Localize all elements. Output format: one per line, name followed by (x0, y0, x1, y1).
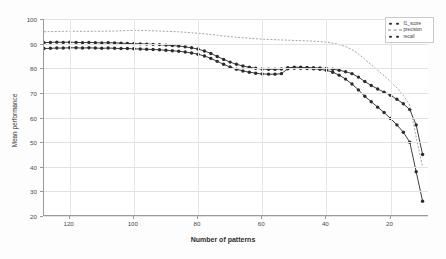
legend-label-f1-score: f1_score (404, 21, 422, 27)
series-marker-recall (171, 49, 174, 52)
chart-figure: 203040506070809010012010080604020 Mean p… (0, 0, 446, 259)
series-marker-recall (203, 54, 206, 57)
gridline-horizontal (44, 93, 428, 94)
series-marker-f1_score (209, 52, 212, 55)
series-marker-recall (370, 100, 373, 103)
series-marker-recall (62, 46, 65, 49)
legend-marker-recall (388, 34, 402, 40)
legend-item-precision: precision (388, 27, 431, 33)
legend-item-recall: recall (388, 34, 431, 40)
gridline-horizontal (44, 19, 428, 20)
y-tick-label: 30 (0, 188, 37, 195)
series-marker-recall (280, 72, 283, 75)
series-marker-f1_score (370, 84, 373, 87)
series-marker-f1_score (376, 87, 379, 90)
series-marker-recall (209, 57, 212, 60)
series-marker-recall (421, 200, 424, 203)
series-marker-f1_score (190, 46, 193, 49)
series-marker-recall (216, 60, 219, 63)
series-marker-recall (363, 95, 366, 98)
series-marker-recall (222, 63, 225, 66)
gridline-vertical (70, 19, 71, 215)
series-marker-recall (254, 71, 257, 74)
x-tick-mark (69, 216, 70, 219)
x-tick-label: 80 (194, 220, 201, 227)
series-marker-recall (158, 48, 161, 51)
x-tick-label: 120 (63, 220, 73, 227)
y-tick-label: 90 (0, 40, 37, 47)
series-marker-f1_score (414, 123, 417, 126)
series-marker-recall (119, 47, 122, 50)
series-marker-recall (164, 49, 167, 52)
series-marker-f1_score (203, 49, 206, 52)
y-tick-mark (40, 68, 43, 69)
series-marker-recall (145, 48, 148, 51)
y-tick-mark (40, 93, 43, 94)
series-marker-f1_score (177, 44, 180, 47)
x-tick-label: 40 (322, 220, 329, 227)
gridline-vertical (326, 19, 327, 215)
series-marker-recall (190, 51, 193, 54)
series-marker-f1_score (395, 98, 398, 101)
y-tick-mark (40, 142, 43, 143)
plot-area (43, 19, 428, 216)
series-line-f1_score (44, 42, 423, 154)
gridline-horizontal (44, 142, 428, 143)
y-tick-label: 80 (0, 65, 37, 72)
gridline-horizontal (44, 167, 428, 168)
series-marker-recall (87, 46, 90, 49)
series-marker-recall (113, 47, 116, 50)
x-tick-mark (197, 216, 198, 219)
y-tick-label: 20 (0, 213, 37, 220)
y-tick-label: 50 (0, 139, 37, 146)
series-marker-recall (350, 82, 353, 85)
y-tick-mark (40, 216, 43, 217)
x-tick-mark (390, 216, 391, 219)
series-marker-recall (344, 77, 347, 80)
gridline-horizontal (44, 68, 428, 69)
series-marker-recall (94, 46, 97, 49)
series-line-recall (44, 48, 423, 201)
series-marker-recall (337, 73, 340, 76)
gridline-vertical (391, 19, 392, 215)
series-marker-recall (382, 111, 385, 114)
series-marker-recall (74, 46, 77, 49)
series-marker-recall (49, 47, 52, 50)
y-tick-mark (40, 19, 43, 20)
y-tick-label: 40 (0, 163, 37, 170)
legend-item-f1-score: f1_score (388, 21, 431, 27)
series-marker-recall (267, 72, 270, 75)
series-marker-f1_score (183, 45, 186, 48)
series-marker-recall (376, 105, 379, 108)
chart-legend: f1_score precision recall (385, 17, 434, 43)
series-marker-f1_score (222, 58, 225, 61)
gridline-horizontal (44, 118, 428, 119)
series-marker-f1_score (421, 153, 424, 156)
series-marker-f1_score (235, 63, 238, 66)
y-tick-label: 100 (0, 16, 37, 23)
gridline-horizontal (44, 191, 428, 192)
x-tick-label: 60 (258, 220, 265, 227)
series-line-precision (44, 30, 423, 166)
series-marker-recall (414, 170, 417, 173)
series-marker-f1_score (344, 70, 347, 73)
y-tick-mark (40, 118, 43, 119)
legend-marker-f1-score (388, 21, 402, 27)
series-marker-recall (395, 123, 398, 126)
x-tick-mark (133, 216, 134, 219)
series-marker-recall (241, 69, 244, 72)
y-axis-label: Mean performance (11, 66, 18, 176)
series-marker-f1_score (363, 80, 366, 83)
gridline-vertical (134, 19, 135, 215)
x-tick-mark (325, 216, 326, 219)
series-marker-recall (81, 46, 84, 49)
series-marker-recall (106, 46, 109, 49)
series-marker-recall (151, 48, 154, 51)
series-marker-f1_score (402, 102, 405, 105)
series-marker-f1_score (241, 64, 244, 67)
series-marker-f1_score (357, 75, 360, 78)
x-tick-label: 100 (128, 220, 138, 227)
x-tick-mark (261, 216, 262, 219)
series-marker-f1_score (228, 60, 231, 63)
series-marker-recall (183, 50, 186, 53)
